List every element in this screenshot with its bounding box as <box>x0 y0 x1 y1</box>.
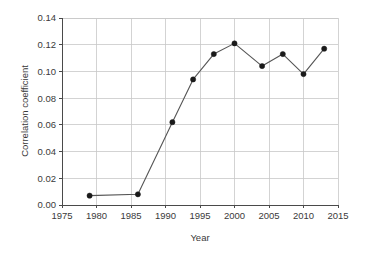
data-point-marker <box>322 46 327 51</box>
y-tick-label: 0.12 <box>38 39 57 50</box>
data-point-marker <box>232 41 237 46</box>
correlation-coefficient-line-chart: 0.000.020.040.060.080.100.120.14 1975198… <box>0 0 371 259</box>
y-tick-label: 0.02 <box>38 173 57 184</box>
y-tick-label: 0.00 <box>38 199 57 210</box>
chart-figure: 0.000.020.040.060.080.100.120.14 1975198… <box>0 0 371 259</box>
x-tick-label: 2015 <box>327 210 348 221</box>
x-tick-label: 1990 <box>155 210 176 221</box>
x-tick-label: 1980 <box>86 210 107 221</box>
data-point-marker <box>260 63 265 68</box>
x-tick-label: 1995 <box>189 210 210 221</box>
data-point-marker <box>191 77 196 82</box>
y-tick-label: 0.08 <box>38 93 57 104</box>
y-tick-label: 0.14 <box>38 12 57 23</box>
data-point-marker <box>211 51 216 56</box>
data-point-marker <box>87 193 92 198</box>
x-tick-label: 2010 <box>293 210 314 221</box>
data-point-marker <box>280 51 285 56</box>
x-tick-label: 2005 <box>258 210 279 221</box>
data-point-marker <box>170 120 175 125</box>
data-point-marker <box>135 192 140 197</box>
x-tick-label: 1975 <box>51 210 72 221</box>
x-tick-label: 1985 <box>120 210 141 221</box>
y-axis-title: Correlation coefficient <box>19 65 30 157</box>
x-tick-label: 2000 <box>224 210 245 221</box>
data-point-marker <box>301 72 306 77</box>
y-tick-label: 0.04 <box>38 146 57 157</box>
y-tick-label: 0.10 <box>38 66 57 77</box>
y-tick-label: 0.06 <box>38 119 57 130</box>
x-axis-tick-labels: 197519801985199019952000200520102015 <box>51 210 348 221</box>
x-axis-title: Year <box>190 232 209 243</box>
